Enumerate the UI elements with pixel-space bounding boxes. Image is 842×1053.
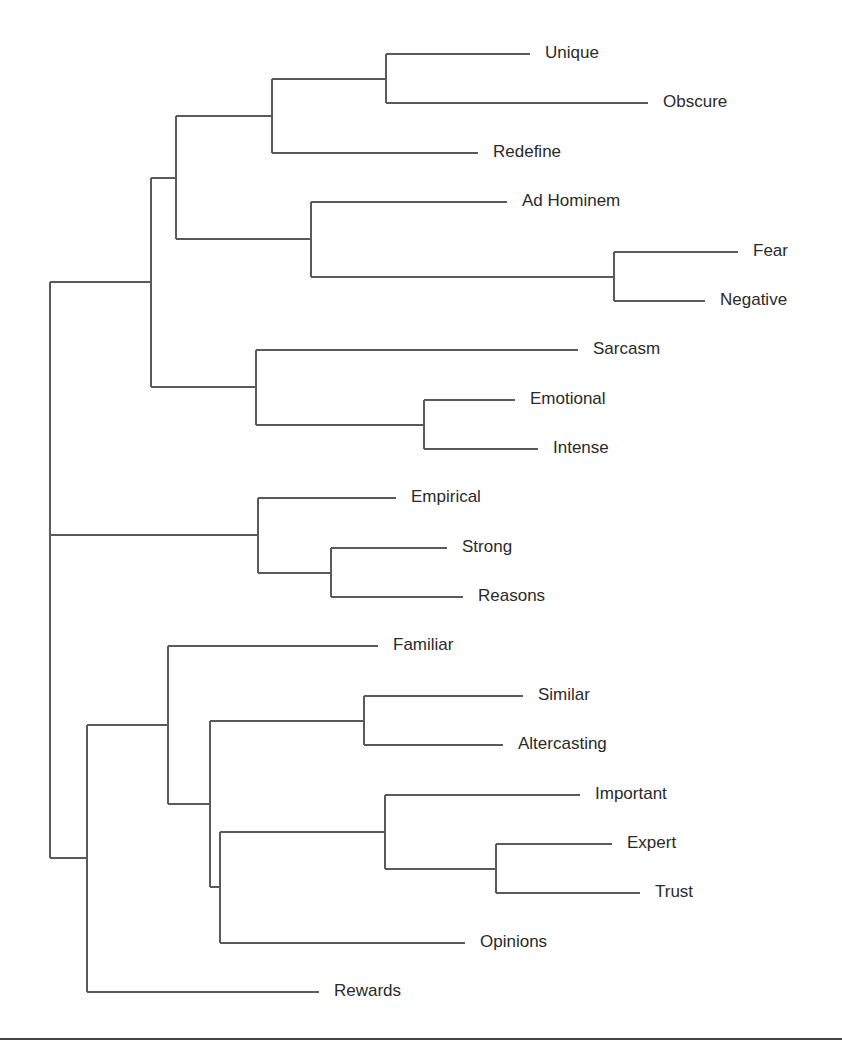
- caption-divider-rule: [0, 1038, 842, 1040]
- leaf-label-reasons: Reasons: [478, 586, 545, 605]
- leaf-label-redefine: Redefine: [493, 142, 561, 161]
- leaf-label-trust: Trust: [655, 882, 693, 901]
- leaf-label-familiar: Familiar: [393, 635, 454, 654]
- leaf-label-ad-hominem: Ad Hominem: [522, 191, 620, 210]
- leaf-label-sarcasm: Sarcasm: [593, 339, 660, 358]
- leaf-label-empirical: Empirical: [411, 487, 481, 506]
- dendrogram: UniqueObscureRedefineAd HominemFearNegat…: [0, 0, 842, 1040]
- leaf-label-important: Important: [595, 784, 667, 803]
- leaf-label-obscure: Obscure: [663, 92, 727, 111]
- dendrogram-leaf-labels: UniqueObscureRedefineAd HominemFearNegat…: [334, 43, 788, 1000]
- leaf-label-intense: Intense: [553, 438, 609, 457]
- leaf-label-unique: Unique: [545, 43, 599, 62]
- leaf-label-fear: Fear: [753, 241, 788, 260]
- leaf-label-opinions: Opinions: [480, 932, 547, 951]
- leaf-label-rewards: Rewards: [334, 981, 401, 1000]
- leaf-label-expert: Expert: [627, 833, 676, 852]
- leaf-label-altercasting: Altercasting: [518, 734, 607, 753]
- leaf-label-strong: Strong: [462, 537, 512, 556]
- leaf-label-emotional: Emotional: [530, 389, 606, 408]
- leaf-label-negative: Negative: [720, 290, 787, 309]
- leaf-label-similar: Similar: [538, 685, 590, 704]
- caption-area-cut-off: [0, 1044, 842, 1053]
